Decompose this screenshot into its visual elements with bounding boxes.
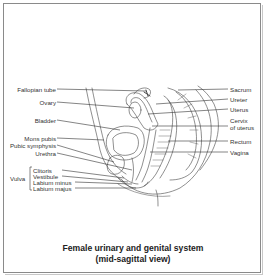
label-ureter: Ureter [230, 96, 247, 103]
leader-ureter [156, 99, 228, 104]
leader-urethra [57, 153, 132, 170]
label-rectum: Rectum [230, 138, 251, 145]
leader-uterus [148, 109, 228, 114]
abdominal-wall-inner [92, 88, 126, 174]
label-bladder: Bladder [35, 117, 56, 124]
rectum-inner [160, 100, 177, 178]
label-labium-majus: Labium majus [33, 185, 72, 192]
label-uterus: Uterus [230, 106, 248, 113]
label-pubic-symphysis: Pubic symphysis [10, 142, 56, 149]
label-ovary: Ovary [39, 99, 56, 106]
urethra-shape [132, 158, 134, 182]
ovary-shape [129, 102, 141, 118]
label-sacrum: Sacrum [230, 86, 251, 93]
rectum-folds [151, 130, 171, 166]
leader-ovary [57, 102, 134, 108]
pelvic-lower [156, 190, 158, 206]
sacrum-inner [176, 92, 197, 170]
label-vulva: Vulva [10, 175, 25, 182]
uterus-outline [126, 93, 158, 130]
vulva-bracket [30, 167, 32, 190]
label-fallopian-tube: Fallopian tube [17, 86, 56, 93]
label-vagina: Vagina [230, 149, 249, 156]
label-mons-pubis: Mons pubis [24, 135, 56, 142]
leader-bladder [57, 120, 120, 130]
label-cervix: Cervix [230, 117, 248, 124]
vagina-outline [136, 128, 150, 180]
leader-mons-pubis [57, 138, 104, 140]
buttock-curve [198, 86, 218, 170]
uterus-inner [131, 98, 152, 122]
label-urethra: Urethra [35, 150, 56, 157]
leader-fallopian-tube [57, 89, 146, 91]
label-cervix-line2: of uterus [230, 124, 254, 131]
figure-caption-title: Female urinary and genital system [0, 243, 266, 254]
bladder-inner [113, 133, 138, 156]
figure-caption-subtitle: (mid-sagittal view) [0, 254, 266, 265]
leader-vestibule [62, 176, 128, 182]
